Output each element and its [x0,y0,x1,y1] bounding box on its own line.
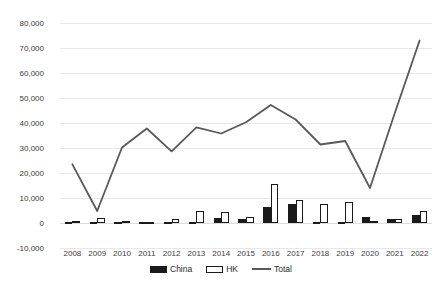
bar-china-2019 [338,222,346,224]
gridline [60,98,432,99]
gridline [60,48,432,49]
x-axis-tick-label: 2014 [212,249,230,258]
y-axis-tick-label: 10,000 [0,194,44,203]
x-axis-tick-label: 2008 [63,249,81,258]
bar-hk-2016 [271,184,279,223]
bar-china-2017 [288,204,296,223]
y-axis-tick-label: 70,000 [0,44,44,53]
x-axis-tick-label: 2017 [287,249,305,258]
bar-hk-2017 [296,200,304,223]
x-axis-tick-label: 2010 [113,249,131,258]
gridline [60,148,432,149]
x-axis-tick-label: 2015 [237,249,255,258]
bar-china-2020 [362,217,370,223]
bar-hk-2013 [196,211,204,223]
y-axis-tick-label: 40,000 [0,119,44,128]
bar-hk-2018 [320,204,328,224]
bar-hk-2021 [395,219,403,224]
bar-china-2021 [387,219,395,223]
x-axis-tick-label: 2019 [336,249,354,258]
bar-china-2015 [238,219,246,224]
bar-solid-icon [150,266,167,273]
x-axis-tick-label: 2018 [311,249,329,258]
gridline [60,73,432,74]
y-axis-tick-label: -10,000 [0,244,44,253]
bar-china-2014 [214,218,222,224]
bar-china-2022 [412,215,420,223]
x-axis-tick-label: 2011 [138,249,155,258]
bar-hk-2020 [370,221,378,223]
x-axis-tick-label: 2013 [187,249,205,258]
x-axis-tick-label: 2016 [262,249,280,258]
legend-item-hk[interactable]: HK [206,264,238,274]
bar-hollow-icon [206,266,223,273]
bar-hk-2011 [147,222,155,224]
legend-item-total[interactable]: Total [252,264,292,274]
y-axis-tick-label: 20,000 [0,169,44,178]
x-axis-tick-label: 2022 [411,249,429,258]
bar-hk-2022 [420,211,428,223]
x-axis-tick-label: 2009 [88,249,106,258]
x-axis-tick-label: 2021 [386,249,404,258]
bar-hk-2014 [221,212,229,223]
total-line-series [60,23,432,248]
chart-legend: China HK Total [0,264,442,274]
bar-hk-2015 [246,217,254,223]
bar-china-2011 [139,222,147,224]
bar-hk-2010 [122,221,130,223]
y-axis-tick-label: 80,000 [0,19,44,28]
gridline [60,123,432,124]
bar-china-2009 [90,222,98,224]
bar-china-2008 [65,222,73,224]
bar-hk-2012 [172,219,180,223]
gridline [60,198,432,199]
bar-hk-2019 [345,202,353,224]
total-line-path [72,41,419,212]
plot-area: 80,00070,00060,00050,00040,00030,00020,0… [60,23,432,248]
legend-label-china: China [170,264,192,274]
x-axis-tick-label: 2020 [361,249,379,258]
bar-hk-2009 [97,218,105,223]
bar-hk-2008 [72,221,80,224]
y-axis-tick-label: 0 [0,219,44,228]
x-axis-tick-label: 2012 [163,249,181,258]
gridline [60,23,432,24]
bar-china-2010 [114,222,122,224]
y-axis-tick-label: 50,000 [0,94,44,103]
line-icon [252,268,271,270]
legend-label-hk: HK [226,264,238,274]
y-axis-tick-label: 30,000 [0,144,44,153]
bar-china-2016 [263,207,271,223]
chart-container: 80,00070,00060,00050,00040,00030,00020,0… [0,0,442,289]
gridline [60,173,432,174]
legend-label-total: Total [274,264,292,274]
y-axis-tick-label: 60,000 [0,69,44,78]
legend-item-china[interactable]: China [150,264,192,274]
bar-china-2012 [164,222,172,224]
bar-china-2018 [313,222,321,224]
bar-china-2013 [189,222,197,224]
